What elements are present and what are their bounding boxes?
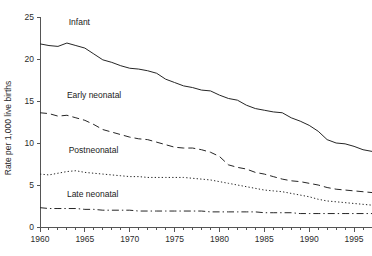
y-axis-title: Rate per 1,000 live births — [3, 81, 13, 176]
x-tick-label: 1965 — [75, 234, 94, 244]
y-tick-label: 0 — [29, 222, 34, 232]
x-tick-label: 1970 — [120, 234, 139, 244]
y-tick-label: 5 — [29, 180, 34, 190]
chart-canvas: 0510152025 19601965197019751980198519901… — [0, 0, 372, 256]
x-tick-label: 1975 — [165, 234, 184, 244]
x-tick-label: 1980 — [210, 234, 229, 244]
series-label-infant: Infant — [69, 17, 91, 27]
y-tick-label: 25 — [25, 12, 35, 22]
y-tick-label: 15 — [25, 96, 35, 106]
infant-mortality-line-chart: 0510152025 19601965197019751980198519901… — [0, 0, 372, 256]
x-tick-label: 1985 — [255, 234, 274, 244]
y-tick-label: 20 — [25, 54, 35, 64]
x-tick-label: 1990 — [300, 234, 319, 244]
y-tick-label: 10 — [25, 138, 35, 148]
y-axis-title-text: Rate per 1,000 live births — [3, 81, 13, 176]
chart-background — [0, 0, 372, 256]
x-tick-label: 1995 — [345, 234, 364, 244]
series-label-postneonatal: Postneonatal — [69, 145, 119, 155]
series-label-early-neonatal: Early neonatal — [67, 90, 121, 100]
series-label-late-neonatal: Late neonatal — [67, 189, 119, 199]
x-tick-label: 1960 — [31, 234, 50, 244]
